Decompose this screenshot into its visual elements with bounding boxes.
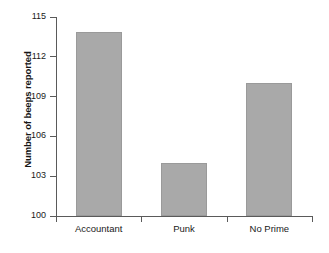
bar-no-prime (246, 83, 292, 216)
x-axis-tick (56, 217, 57, 222)
y-axis-tick-label: 100 (16, 211, 46, 220)
y-axis-tick-label: 106 (16, 131, 46, 140)
y-axis-tick-label: 103 (16, 171, 46, 180)
x-axis-tick (312, 217, 313, 222)
x-axis-line (56, 216, 313, 217)
y-axis-tick (50, 17, 56, 18)
x-axis-tick (227, 217, 228, 222)
y-axis-tick (50, 176, 56, 177)
y-axis-tick (50, 56, 56, 57)
y-axis-tick-label: 112 (16, 52, 46, 61)
x-axis-tick (141, 217, 142, 222)
y-axis-tick-label: 109 (16, 92, 46, 101)
bar-punk (161, 163, 207, 216)
x-axis-category-label: No Prime (227, 224, 312, 234)
x-axis-category-label: Punk (141, 224, 226, 234)
y-axis-tick-label: 115 (16, 12, 46, 21)
y-axis-line (56, 17, 57, 217)
bar-accountant (76, 32, 122, 216)
x-axis-category-label: Accountant (56, 224, 141, 234)
y-axis-tick (50, 96, 56, 97)
bar-chart: Number of beeps reported 100103106109112… (0, 0, 329, 253)
y-axis-tick (50, 136, 56, 137)
